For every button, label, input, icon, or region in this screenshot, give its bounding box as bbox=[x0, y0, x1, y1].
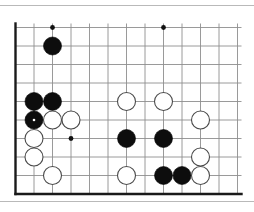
white-stone[interactable] bbox=[62, 111, 80, 129]
black-stone[interactable] bbox=[155, 130, 173, 148]
stone-white[interactable] bbox=[118, 167, 136, 185]
star-point bbox=[69, 136, 74, 141]
star-point bbox=[161, 25, 166, 30]
stone-black[interactable] bbox=[155, 130, 173, 148]
stone-white[interactable] bbox=[25, 130, 43, 148]
white-stone[interactable] bbox=[44, 111, 62, 129]
stone-black[interactable] bbox=[44, 37, 62, 55]
stone-black[interactable] bbox=[118, 130, 136, 148]
black-stone[interactable] bbox=[25, 93, 43, 111]
go-board[interactable] bbox=[0, 0, 254, 212]
black-stone[interactable] bbox=[118, 130, 136, 148]
black-stone[interactable] bbox=[44, 93, 62, 111]
stone-white[interactable] bbox=[192, 148, 210, 166]
stone-black[interactable] bbox=[155, 167, 173, 185]
go-board-canvas[interactable] bbox=[0, 0, 254, 212]
stone-white[interactable] bbox=[155, 93, 173, 111]
stone-black[interactable] bbox=[25, 111, 43, 129]
stone-white[interactable] bbox=[118, 93, 136, 111]
black-stone[interactable] bbox=[155, 167, 173, 185]
stone-white[interactable] bbox=[192, 111, 210, 129]
stone-black[interactable] bbox=[44, 93, 62, 111]
white-stone[interactable] bbox=[192, 167, 210, 185]
white-stone[interactable] bbox=[118, 93, 136, 111]
white-stone[interactable] bbox=[118, 167, 136, 185]
stone-white[interactable] bbox=[44, 167, 62, 185]
black-stone[interactable] bbox=[44, 37, 62, 55]
white-stone[interactable] bbox=[192, 148, 210, 166]
white-stone[interactable] bbox=[155, 93, 173, 111]
stone-white[interactable] bbox=[25, 148, 43, 166]
stone-white[interactable] bbox=[44, 111, 62, 129]
white-stone[interactable] bbox=[44, 167, 62, 185]
star-point bbox=[50, 25, 55, 30]
stone-black[interactable] bbox=[25, 93, 43, 111]
white-stone[interactable] bbox=[25, 148, 43, 166]
white-stone[interactable] bbox=[25, 130, 43, 148]
go-diagram-figure bbox=[0, 0, 254, 212]
last-move-marker bbox=[33, 119, 36, 122]
stone-black[interactable] bbox=[173, 167, 191, 185]
stone-white[interactable] bbox=[192, 167, 210, 185]
black-stone[interactable] bbox=[173, 167, 191, 185]
stone-white[interactable] bbox=[62, 111, 80, 129]
white-stone[interactable] bbox=[192, 111, 210, 129]
